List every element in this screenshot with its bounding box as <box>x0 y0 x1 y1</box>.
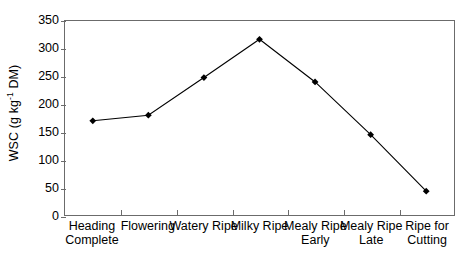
y-tick-mark <box>61 133 66 134</box>
x-tick-label-line: Cutting <box>388 233 466 247</box>
y-tick-label: 350 <box>26 14 59 27</box>
y-tick-label: 50 <box>26 182 59 195</box>
x-tick-mark <box>233 210 234 216</box>
y-axis-title-text: WSC (g kg-1 DM) <box>7 64 21 161</box>
x-tick-mark <box>288 210 289 216</box>
x-tick-mark <box>121 210 122 216</box>
y-axis-title-before: WSC (g kg <box>7 99 21 160</box>
y-axis-title: WSC (g kg-1 DM) <box>0 0 28 225</box>
y-tick-label: 250 <box>26 70 59 83</box>
data-point-marker <box>145 112 152 119</box>
y-tick-mark <box>61 21 66 22</box>
series-line-chart <box>65 21 454 215</box>
y-tick-mark <box>61 217 66 218</box>
y-tick-label: 200 <box>26 98 59 111</box>
data-point-marker <box>89 117 96 124</box>
x-tick-mark <box>400 210 401 216</box>
chart-figure: WSC (g kg-1 DM) 050100150200250300350 He… <box>0 0 471 265</box>
y-tick-label: 100 <box>26 154 59 167</box>
x-tick-label-line: Complete <box>53 233 131 247</box>
plot-area <box>64 20 455 216</box>
x-tick-label-line: Ripe for <box>388 219 466 233</box>
x-tick-mark <box>344 210 345 216</box>
y-tick-mark <box>61 189 66 190</box>
y-tick-mark <box>61 105 66 106</box>
x-tick-label: Ripe forCutting <box>388 219 466 247</box>
y-axis-title-after: DM) <box>7 64 21 91</box>
y-tick-mark <box>61 77 66 78</box>
y-tick-label: 150 <box>26 126 59 139</box>
series-line <box>93 39 426 191</box>
data-point-marker <box>201 74 208 81</box>
x-axis-tick-labels: HeadingCompleteFloweringWatery RipeMilky… <box>64 219 455 265</box>
y-tick-mark <box>61 161 66 162</box>
x-tick-mark <box>177 210 178 216</box>
y-axis-title-exponent: -1 <box>5 92 15 100</box>
y-tick-label: 300 <box>26 42 59 55</box>
y-tick-mark <box>61 49 66 50</box>
